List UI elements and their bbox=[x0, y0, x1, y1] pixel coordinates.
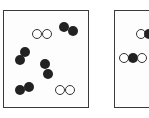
white-atom-icon bbox=[32, 29, 42, 39]
dark-atom-icon bbox=[15, 55, 25, 65]
dark-atom-icon bbox=[68, 26, 78, 36]
dark-atom-icon bbox=[24, 82, 34, 92]
white-atom-icon bbox=[42, 29, 52, 39]
white-atom-icon bbox=[55, 85, 65, 95]
dark-atom-icon bbox=[43, 69, 53, 79]
white-atom-icon bbox=[137, 53, 147, 63]
dark-atom-icon bbox=[144, 29, 149, 39]
white-atom-icon bbox=[65, 85, 75, 95]
dark-atom-icon bbox=[40, 59, 50, 69]
